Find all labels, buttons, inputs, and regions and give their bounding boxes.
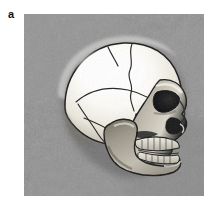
skull-photograph-canvas [24,14,204,196]
figure-panel: a [0,0,214,206]
photo-grain-overlay [24,14,204,196]
skull-photograph [24,14,204,196]
panel-label: a [8,9,14,20]
